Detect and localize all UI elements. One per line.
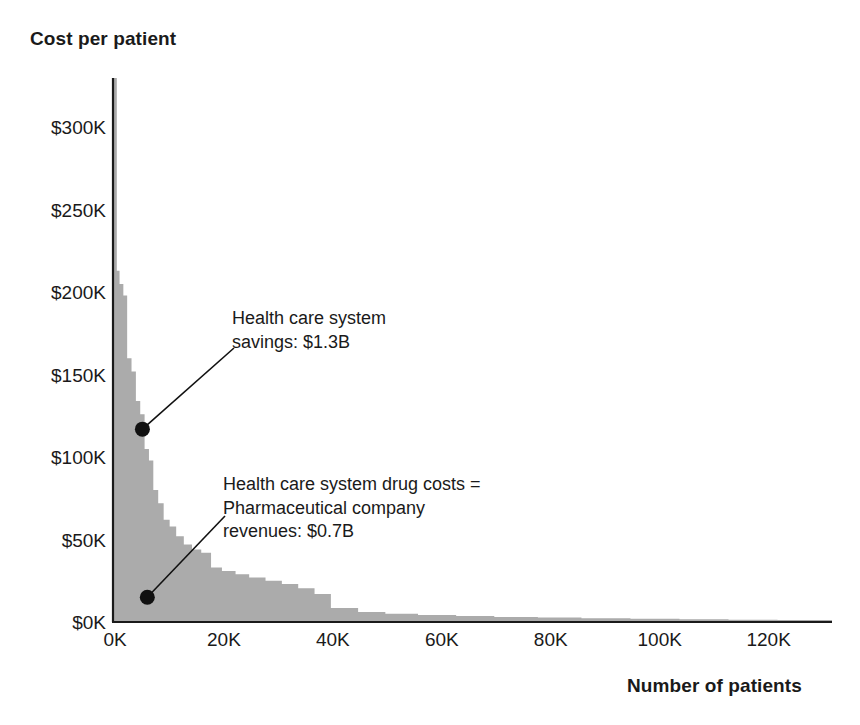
x-tick-label: 100K bbox=[638, 630, 682, 649]
chart-figure: Cost per patient $300K$250K$200K$150K$10… bbox=[0, 0, 860, 725]
x-tick-label: 80K bbox=[534, 630, 568, 649]
x-tick-label: 0K bbox=[103, 630, 126, 649]
x-tick-label: 20K bbox=[207, 630, 241, 649]
drug-costs-annotation-text: Health care system drug costs = Pharmace… bbox=[223, 473, 481, 544]
x-tick-label: 40K bbox=[316, 630, 350, 649]
x-axis-tick-labels: 0K20K40K60K80K100K120K bbox=[0, 0, 860, 725]
x-axis-title: Number of patients bbox=[627, 675, 802, 697]
savings-annotation-text: Health care system savings: $1.3B bbox=[232, 307, 386, 354]
x-tick-label: 120K bbox=[746, 630, 790, 649]
x-tick-label: 60K bbox=[425, 630, 459, 649]
